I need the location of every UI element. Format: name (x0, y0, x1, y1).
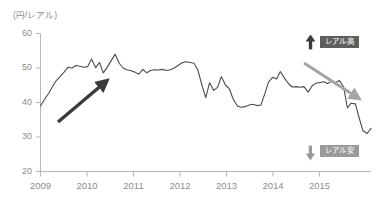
rising-trend-arrow (58, 84, 103, 122)
y-tick-marks (36, 34, 41, 172)
x-tick-label-2009: 2009 (21, 180, 61, 191)
y-tick-label-60: 60 (8, 28, 32, 38)
x-tick-label-2011: 2011 (114, 180, 154, 191)
y-tick-label-30: 30 (8, 131, 32, 141)
x-tick-label-2015: 2015 (300, 180, 340, 191)
x-tick-label-2013: 2013 (207, 180, 247, 191)
falling-trend-arrow (304, 63, 355, 96)
x-tick-marks (41, 172, 320, 177)
arrow-up-icon (306, 35, 316, 50)
y-tick-label-50: 50 (8, 62, 32, 72)
chart-canvas (0, 0, 377, 201)
annotation-real-weak: レアル安 (320, 145, 359, 157)
y-tick-label-20: 20 (8, 166, 32, 176)
x-tick-label-2014: 2014 (253, 180, 293, 191)
arrow-down-icon (306, 146, 315, 161)
x-tick-label-2010: 2010 (67, 180, 107, 191)
annotation-real-strong: レアル高 (320, 36, 359, 48)
y-tick-label-40: 40 (8, 97, 32, 107)
exchange-rate-chart: (円/レアル) (0, 0, 377, 201)
x-tick-label-2012: 2012 (160, 180, 200, 191)
